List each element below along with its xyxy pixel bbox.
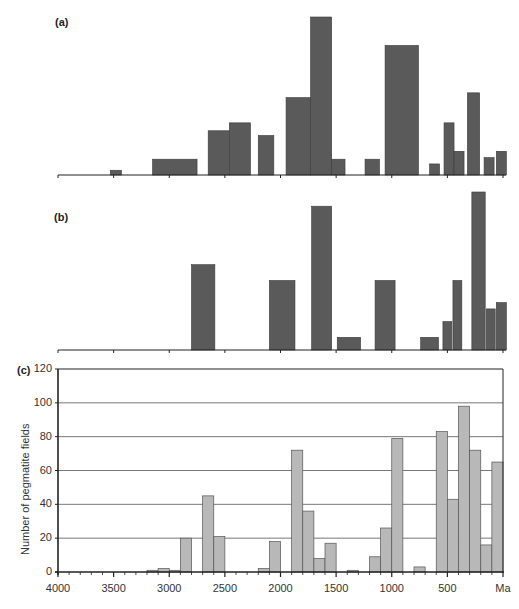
histogram-bar <box>303 511 314 572</box>
histogram-bar <box>496 151 506 175</box>
histogram-bar <box>436 432 447 572</box>
panel-c-histogram <box>55 369 504 577</box>
y-tick-label: 40 <box>22 497 52 509</box>
histogram-bar <box>269 542 280 572</box>
histogram-bar <box>325 543 336 572</box>
x-tick-label: 3500 <box>101 582 125 594</box>
histogram-bar <box>443 322 452 350</box>
histogram-bar <box>286 98 310 175</box>
y-tick-label: 20 <box>22 531 52 543</box>
histogram-bar <box>481 545 492 572</box>
x-tick-label: Ma <box>495 582 510 594</box>
histogram-bar <box>470 450 481 572</box>
histogram-bar <box>459 406 470 572</box>
histogram-bar <box>203 496 214 572</box>
histogram-bar <box>375 280 395 350</box>
y-tick-label: 0 <box>22 565 52 577</box>
histogram-bar <box>392 438 403 572</box>
x-tick-label: 1000 <box>380 582 404 594</box>
histogram-bar <box>314 558 325 572</box>
histogram-bar <box>472 192 485 350</box>
y-tick-label: 60 <box>22 464 52 476</box>
histogram-bar <box>385 45 418 175</box>
histogram-bar <box>269 280 295 350</box>
panel-b-histogram <box>58 192 506 353</box>
x-tick-label: 3000 <box>157 582 181 594</box>
histogram-bar <box>311 17 332 175</box>
histogram-bar <box>484 158 494 175</box>
y-tick-label: 120 <box>22 362 52 374</box>
histogram-bar <box>486 309 495 350</box>
histogram-bar <box>467 93 479 175</box>
histogram-bar <box>208 131 229 175</box>
histogram-bar <box>110 170 121 175</box>
histogram-bar <box>312 206 332 350</box>
x-tick-label: 500 <box>438 582 456 594</box>
histogram-bar <box>180 538 191 572</box>
histogram-bar <box>258 136 274 176</box>
histogram-bar <box>214 536 225 572</box>
histogram-bar <box>192 265 215 350</box>
histogram-bar <box>229 123 250 175</box>
histogram-bar <box>453 280 462 350</box>
histogram-bar <box>454 151 464 175</box>
histogram-bar <box>292 450 303 572</box>
histogram-bar <box>496 303 506 350</box>
x-tick-label: 2000 <box>268 582 292 594</box>
histogram-bar <box>153 159 198 175</box>
y-tick-label: 100 <box>22 396 52 408</box>
x-tick-label: 1500 <box>324 582 348 594</box>
histogram-bar <box>332 159 345 175</box>
histogram-bar <box>370 557 381 572</box>
panel-a-histogram <box>58 17 506 178</box>
histogram-bar <box>381 528 392 572</box>
histogram-bar <box>444 123 454 175</box>
histogram-bar <box>430 164 440 175</box>
y-tick-label: 80 <box>22 430 52 442</box>
histogram-bar <box>365 159 379 175</box>
chart-canvas <box>0 0 519 609</box>
histogram-bar <box>337 337 360 350</box>
histogram-bar <box>447 499 458 572</box>
histogram-bar <box>421 337 439 350</box>
x-tick-label: 2500 <box>213 582 237 594</box>
histogram-bar <box>492 462 503 572</box>
x-tick-label: 4000 <box>46 582 70 594</box>
